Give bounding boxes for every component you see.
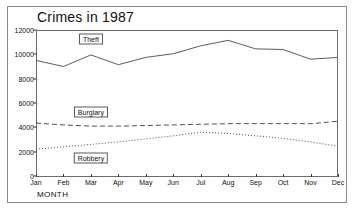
- x-tick-mark: [338, 174, 339, 177]
- series-line-robbery: [36, 132, 338, 149]
- x-tick-label: Nov: [304, 179, 316, 186]
- x-tick-label: Apr: [113, 179, 124, 186]
- x-axis-title: MONTH: [37, 190, 68, 199]
- chart-window: Crimes in 1987 0200040006000800010000120…: [0, 0, 354, 211]
- x-tick-label: Jul: [196, 179, 205, 186]
- y-tick-label: 4000: [0, 124, 34, 131]
- x-tick-label: Aug: [222, 179, 234, 186]
- chart-title: Crimes in 1987: [37, 9, 134, 25]
- series-label-theft: Theft: [79, 33, 103, 44]
- x-tick-label: Oct: [278, 179, 289, 186]
- x-tick-label: Sep: [249, 179, 261, 186]
- series-label-robbery: Robbery: [74, 153, 108, 164]
- y-tick-label: 8000: [0, 75, 34, 82]
- series-line-burglary: [36, 121, 338, 126]
- x-tick-label: Mar: [85, 179, 97, 186]
- y-tick-label: 6000: [0, 100, 34, 107]
- x-axis-line: [36, 176, 338, 177]
- y-tick-label: 0: [0, 173, 34, 180]
- y-tick-label: 10000: [0, 51, 34, 58]
- x-tick-label: Jan: [30, 179, 41, 186]
- x-tick-label: May: [139, 179, 152, 186]
- x-tick-label: Jun: [168, 179, 179, 186]
- x-tick-label: Dec: [332, 179, 344, 186]
- series-label-burglary: Burglary: [74, 107, 108, 118]
- y-tick-label: 2000: [0, 148, 34, 155]
- x-tick-label: Feb: [57, 179, 69, 186]
- y-tick-label: 12000: [0, 27, 34, 34]
